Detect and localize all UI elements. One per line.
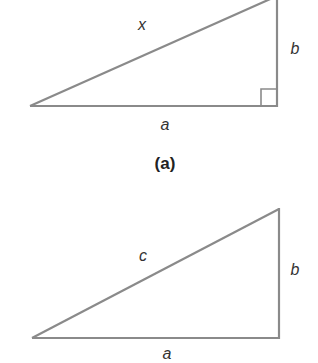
label-side-b-a: b [291,41,300,57]
triangle-b [32,208,280,339]
label-base-a-a: a [161,117,170,133]
triangle-a [30,0,277,107]
triangle-b-hypotenuse [32,209,279,338]
triangle-a-hypotenuse [30,0,277,106]
label-hypotenuse-x: x [138,17,146,33]
right-angle-marker [261,89,277,106]
label-hypotenuse-c: c [139,248,147,264]
label-side-b-b: b [291,262,300,278]
diagram-canvas [0,0,318,363]
label-base-a-b: a [163,346,172,362]
caption-a: (a) [155,155,176,172]
